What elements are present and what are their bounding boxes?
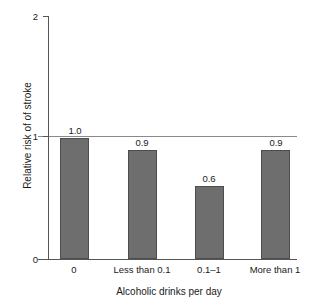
- bar-chart-figure: Relative risk of of stroke 0 1 2 1.0 0.9…: [0, 0, 317, 307]
- bar-value-label-3: 0.9: [256, 138, 296, 148]
- y-tick-label-0: 0: [33, 255, 38, 265]
- bar-category-1: [128, 150, 157, 259]
- bar-value-label-2: 0.6: [189, 174, 229, 184]
- x-tick-label-3: More than 1: [250, 265, 301, 275]
- y-axis-title: Relative risk of of stroke: [22, 46, 33, 226]
- x-tick-label-1: Less than 0.1: [113, 265, 170, 275]
- x-axis-title: Alcoholic drinks per day: [38, 286, 300, 297]
- bar-category-2: [195, 186, 224, 259]
- x-tick-label-0: 0: [71, 265, 76, 275]
- y-tick-label-1: 1: [33, 132, 38, 142]
- x-axis-line: [38, 259, 297, 260]
- bar-value-label-0: 1.0: [55, 126, 95, 136]
- x-tick-label-2: 0.1–1: [197, 265, 221, 275]
- bar-category-3: [261, 150, 290, 259]
- bar-category-0: [60, 138, 89, 260]
- y-tick-label-2: 2: [33, 12, 38, 22]
- y-tick-mark-0: [43, 259, 49, 260]
- bar-value-label-1: 0.9: [122, 138, 162, 148]
